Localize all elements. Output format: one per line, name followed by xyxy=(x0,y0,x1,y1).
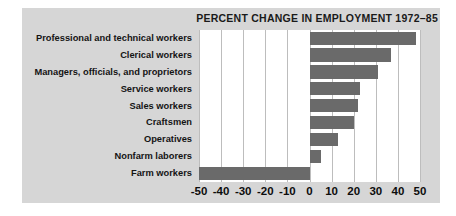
chart-figure: PERCENT CHANGE IN EMPLOYMENT 1972–85 Pro… xyxy=(0,0,456,216)
category-label: Farm workers xyxy=(24,165,196,182)
bar xyxy=(310,150,321,163)
bar xyxy=(310,48,392,61)
category-axis-labels: Professional and technical workers Cleri… xyxy=(24,30,196,182)
bar-row xyxy=(199,98,420,115)
bar xyxy=(310,116,354,129)
bar-row xyxy=(199,165,420,182)
bar-row xyxy=(199,81,420,98)
bar xyxy=(310,32,416,45)
category-label: Clerical workers xyxy=(24,47,196,64)
category-label: Nonfarm laborers xyxy=(24,148,196,165)
bar-row xyxy=(199,47,420,64)
value-axis-labels: -50-40-30-20-1001020304050 xyxy=(199,183,420,200)
plot-area xyxy=(199,30,420,182)
bar-series xyxy=(199,30,420,182)
x-tick-label: 50 xyxy=(403,183,437,199)
bar xyxy=(310,99,359,112)
category-label: Professional and technical workers xyxy=(24,30,196,47)
category-label: Sales workers xyxy=(24,98,196,115)
bar-row xyxy=(199,64,420,81)
category-label: Service workers xyxy=(24,81,196,98)
bar-row xyxy=(199,114,420,131)
bar xyxy=(310,65,379,78)
bar-row xyxy=(199,30,420,47)
category-label: Managers, officials, and proprietors xyxy=(24,64,196,81)
chart-title: PERCENT CHANGE IN EMPLOYMENT 1972–85 xyxy=(196,11,438,25)
category-label: Craftsmen xyxy=(24,114,196,131)
category-label: Operatives xyxy=(24,131,196,148)
bar-row xyxy=(199,148,420,165)
bar-row xyxy=(199,131,420,148)
bar xyxy=(310,133,339,146)
bar xyxy=(310,82,361,95)
bar xyxy=(199,167,310,180)
gridline xyxy=(420,30,421,182)
